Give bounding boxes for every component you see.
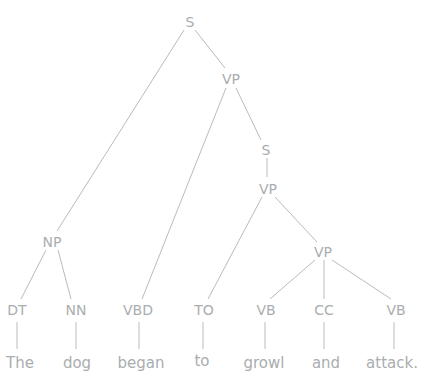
- edge-vp3-vb2: [332, 260, 391, 299]
- parse-tree-figure: S VP S VP NP VP DT NN VBD TO VB CC VB Th…: [0, 0, 425, 378]
- node-s-embedded: S: [262, 142, 271, 158]
- word-to: to: [194, 352, 209, 370]
- node-vp-coord: VP: [314, 244, 332, 260]
- node-np: NP: [43, 234, 62, 250]
- tag-nn: NN: [66, 302, 87, 318]
- word-and: and: [312, 354, 340, 372]
- tag-cc: CC: [314, 302, 334, 318]
- edge-s-vp: [195, 30, 225, 68]
- node-s-root: S: [186, 14, 195, 30]
- edge-np-nn: [58, 250, 71, 299]
- node-vp-embedded: VP: [259, 181, 277, 197]
- word-attack: attack.: [366, 354, 418, 372]
- word-began: began: [118, 354, 165, 372]
- edge-s-np: [57, 30, 184, 231]
- tag-vb-1: VB: [256, 302, 275, 318]
- tree-labels: S VP S VP NP VP DT NN VBD TO VB CC VB Th…: [5, 14, 418, 372]
- parse-tree-canvas: S VP S VP NP VP DT NN VBD TO VB CC VB Th…: [0, 0, 425, 378]
- tag-vb-2: VB: [386, 302, 405, 318]
- tag-to: TO: [193, 302, 214, 318]
- edge-vp3-vb1: [270, 260, 315, 299]
- edge-vp2-to: [208, 197, 262, 299]
- edge-np-dt: [21, 250, 46, 299]
- word-the: The: [5, 354, 34, 372]
- word-dog: dog: [63, 354, 91, 372]
- word-growl: growl: [244, 354, 285, 372]
- edge-vp2-vp3: [275, 197, 317, 242]
- edge-vp-vbd: [142, 88, 226, 299]
- tag-dt: DT: [7, 302, 27, 318]
- edge-vp-s2: [236, 88, 261, 140]
- tag-vbd: VBD: [123, 302, 153, 318]
- node-vp-main: VP: [222, 71, 240, 87]
